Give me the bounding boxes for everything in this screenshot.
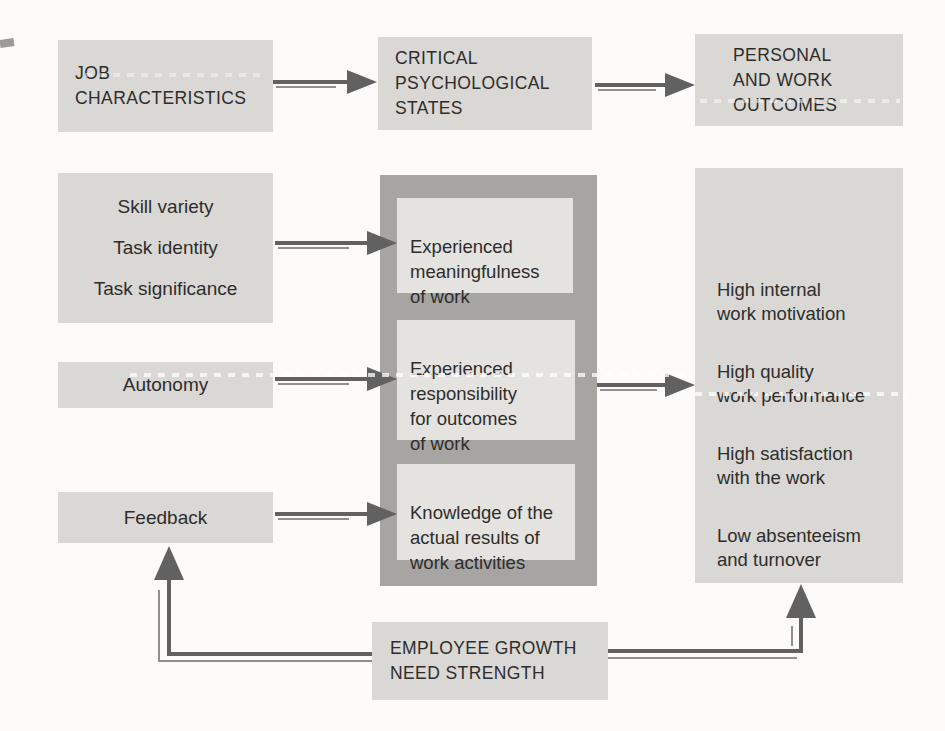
outcome-quality-performance: High quality work performance [717,360,895,408]
arrow-line-shadow [278,383,349,385]
arrowhead-up-icon [786,584,816,618]
moderator-label: EMPLOYEE GROWTH NEED STRENGTH [390,636,577,686]
arrow-line [595,83,669,87]
outcome-satisfaction: High satisfaction with the work [717,442,895,490]
arrow-segment [608,649,803,653]
task-significance-label: Task significance [94,278,238,300]
outcome-internal-motivation: High internal work motivation [717,278,895,326]
skill-variety-label: Skill variety [117,196,213,218]
meaningfulness-box: Experienced meaningfulness of work [397,198,573,293]
arrow-line-shadow [600,389,657,391]
arrow-segment [167,652,372,656]
header-job-characteristics-label: JOB CHARACTERISTICS [75,61,246,111]
arrow-line [275,241,371,245]
arrowhead-right-icon [665,373,695,397]
outcome-absenteeism-turnover: Low absenteeism and turnover [717,524,895,572]
arrow-line [273,80,351,84]
arrowhead-up-icon [154,546,184,580]
page-edge-mark [0,38,14,48]
arrow-segment-shadow [608,657,797,659]
autonomy-box: Autonomy [58,362,273,408]
feedback-box: Feedback [58,492,273,543]
outcomes-box: High internal work motivation High quali… [695,168,903,583]
arrow-states-to-outcomes [597,373,695,397]
arrow-autonomy-to-responsibility [275,367,397,391]
job-characteristics-model-diagram: JOB CHARACTERISTICS CRITICAL PSYCHOLOGIC… [0,0,945,731]
arrow-segment [167,580,171,656]
knowledge-box: Knowledge of the actual results of work … [397,464,575,560]
feedback-label: Feedback [124,507,207,529]
arrow-feedback-to-knowledge [275,502,397,526]
responsibility-box: Experienced responsibility for outcomes … [397,320,575,440]
arrowhead-right-icon [367,231,397,255]
arrow-psych-to-outcomes [595,73,695,97]
arrowhead-right-icon [347,70,377,94]
arrow-line [597,383,669,387]
arrow-line-shadow [598,89,656,91]
arrow-line [275,512,371,516]
arrowhead-right-icon [367,502,397,526]
arrow-segment [799,618,803,653]
task-identity-label: Task identity [113,237,218,259]
arrow-segment-shadow [791,626,793,646]
arrow-segment-shadow [158,590,160,662]
arrowhead-right-icon [367,367,397,391]
arrowhead-right-icon [665,73,695,97]
header-box-job-characteristics: JOB CHARACTERISTICS [58,40,273,132]
arrow-segment-shadow [158,660,372,662]
header-box-critical-psychological-states: CRITICAL PSYCHOLOGICAL STATES [378,37,592,130]
header-box-personal-work-outcomes: PERSONAL AND WORK OUTCOMES [695,34,903,126]
header-psychological-states-label: CRITICAL PSYCHOLOGICAL STATES [395,46,550,121]
arrow-job-to-psych [273,70,377,94]
header-outcomes-label: PERSONAL AND WORK OUTCOMES [733,43,837,118]
moderator-box: EMPLOYEE GROWTH NEED STRENGTH [372,622,608,700]
arrow-core-to-meaningfulness [275,231,397,255]
core-dimensions-box: Skill variety Task identity Task signifi… [58,173,273,323]
arrow-line-shadow [278,518,349,520]
arrow-line [275,377,371,381]
arrow-line-shadow [276,86,336,88]
arrow-line-shadow [278,247,349,249]
autonomy-label: Autonomy [123,374,209,396]
responsibility-label: Experienced responsibility for outcomes … [410,358,517,454]
